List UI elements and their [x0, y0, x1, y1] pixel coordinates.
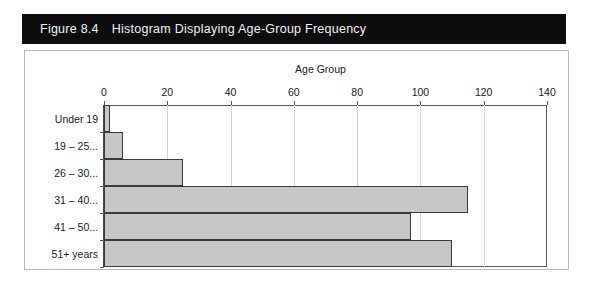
bar-row: 51+ years — [104, 240, 547, 267]
x-tick-label: 40 — [225, 86, 237, 98]
figure-container: Figure 8.4Histogram Displaying Age-Group… — [0, 0, 591, 292]
x-tick-label: 0 — [101, 86, 107, 98]
category-label: 19 – 25... — [54, 140, 98, 152]
x-tick-label: 20 — [161, 86, 173, 98]
bar-row: 41 – 50... — [104, 213, 547, 240]
histogram-bar[interactable] — [104, 159, 183, 186]
bar-row: Under 19 — [104, 105, 547, 132]
chart-panel: Age Group 020406080100120140 Under 1919 … — [24, 50, 569, 270]
bar-row: 31 – 40... — [104, 186, 547, 213]
x-tick-mark — [547, 101, 548, 105]
category-label: Under 19 — [55, 113, 98, 125]
category-label: 26 – 30... — [54, 167, 98, 179]
bar-row: 19 – 25... — [104, 132, 547, 159]
histogram-bar[interactable] — [104, 240, 452, 267]
x-axis-title: Age Group — [25, 63, 568, 75]
histogram-bar[interactable] — [104, 105, 110, 132]
x-tick-label: 80 — [351, 86, 363, 98]
bar-row: 26 – 30... — [104, 159, 547, 186]
figure-title-banner: Figure 8.4Histogram Displaying Age-Group… — [22, 14, 566, 44]
histogram-bar[interactable] — [104, 186, 468, 213]
figure-caption: Histogram Displaying Age-Group Frequency — [112, 22, 367, 36]
histogram-bar[interactable] — [104, 132, 123, 159]
category-label: 41 – 50... — [54, 221, 98, 233]
figure-title-text: Figure 8.4Histogram Displaying Age-Group… — [40, 22, 366, 36]
plot-area: 020406080100120140 Under 1919 – 25...26 … — [104, 105, 547, 267]
x-tick-label: 120 — [475, 86, 493, 98]
x-tick-label: 60 — [288, 86, 300, 98]
histogram-bar[interactable] — [104, 213, 411, 240]
y-tick-mark — [100, 267, 104, 268]
x-tick-label: 100 — [412, 86, 430, 98]
figure-number: Figure 8.4 — [40, 22, 99, 36]
x-tick-label: 140 — [538, 86, 556, 98]
category-label: 51+ years — [52, 248, 98, 260]
category-label: 31 – 40... — [54, 194, 98, 206]
